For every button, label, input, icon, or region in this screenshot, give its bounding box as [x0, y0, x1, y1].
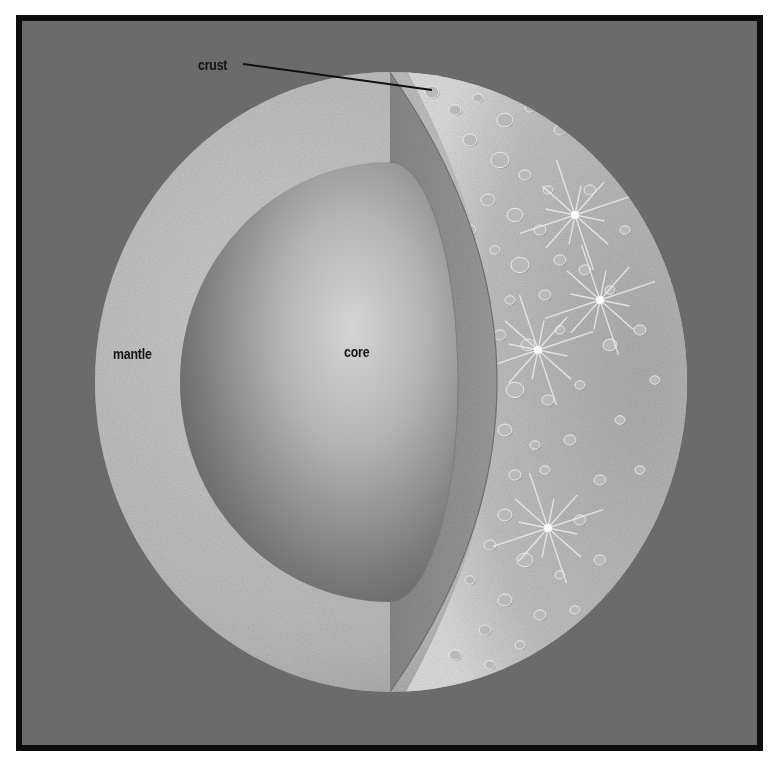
diagram-frame: crust mantle core [16, 15, 763, 751]
label-core: core [344, 345, 369, 359]
planet-cross-section [16, 15, 763, 751]
label-mantle: mantle [113, 347, 152, 361]
label-crust: crust [198, 58, 227, 72]
